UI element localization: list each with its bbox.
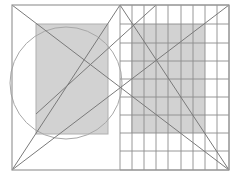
geometric-construction-diagram bbox=[0, 0, 238, 187]
diagram-canvas bbox=[0, 0, 238, 187]
